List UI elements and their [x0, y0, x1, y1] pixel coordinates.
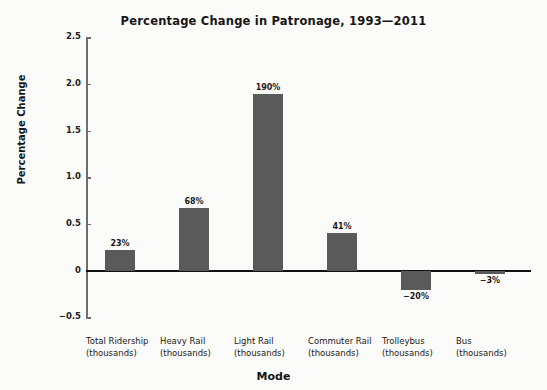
bar-value-label: 190% — [238, 83, 298, 92]
y-tick-label: 1.0 — [66, 171, 81, 181]
x-tick-label: Heavy Rail(thousands) — [160, 336, 211, 359]
chart-title: Percentage Change in Patronage, 1993—201… — [0, 14, 547, 28]
y-tick-label: 2.0 — [66, 78, 81, 88]
x-tick-label: Commuter Rail(thousands) — [308, 336, 372, 359]
x-tick-label-line: Total Ridership — [86, 336, 149, 348]
y-tick-label: −0.5 — [59, 311, 81, 321]
x-tick-label-line: (thousands) — [234, 348, 285, 360]
bar-value-label: −20% — [386, 292, 446, 301]
bar-chart: Percentage Change in Patronage, 1993—201… — [0, 0, 547, 390]
x-tick-label: Trolleybus(thousands) — [382, 336, 433, 359]
bar: 41% — [327, 233, 357, 271]
x-tick-label: Light Rail(thousands) — [234, 336, 285, 359]
bar: −20% — [401, 271, 431, 290]
bar-value-label: 23% — [90, 239, 150, 248]
y-tick-label: 0 — [75, 265, 81, 275]
x-tick-label: Total Ridership(thousands) — [86, 336, 149, 359]
x-tick-label-line: Heavy Rail — [160, 336, 211, 348]
x-tick-label-line: Trolleybus — [382, 336, 433, 348]
x-tick-label-line: (thousands) — [86, 348, 149, 360]
x-tick-label-line: Light Rail — [234, 336, 285, 348]
bar-value-label: 41% — [312, 222, 372, 231]
bar-value-label: −3% — [460, 276, 520, 285]
x-tick-label-line: (thousands) — [160, 348, 211, 360]
y-tick-label: 2.5 — [66, 31, 81, 41]
bar-value-label: 68% — [164, 197, 224, 206]
bar: 68% — [179, 208, 209, 271]
y-tick-label: 0.5 — [66, 218, 81, 228]
x-tick-label: Bus(thousands) — [456, 336, 507, 359]
plot-area: 23%68%190%41%−20%−3% — [86, 38, 534, 319]
bar: 23% — [105, 250, 135, 271]
bar: −3% — [475, 271, 505, 274]
x-tick-label-line: (thousands) — [308, 348, 372, 360]
x-tick-label-line: (thousands) — [456, 348, 507, 360]
bar: 190% — [253, 94, 283, 271]
x-axis-title: Mode — [0, 370, 547, 383]
y-axis-title: Percentage Change — [16, 70, 27, 190]
x-tick-label-line: (thousands) — [382, 348, 433, 360]
y-tick-label: 1.5 — [66, 125, 81, 135]
x-tick-label-line: Bus — [456, 336, 507, 348]
x-tick-label-line: Commuter Rail — [308, 336, 372, 348]
